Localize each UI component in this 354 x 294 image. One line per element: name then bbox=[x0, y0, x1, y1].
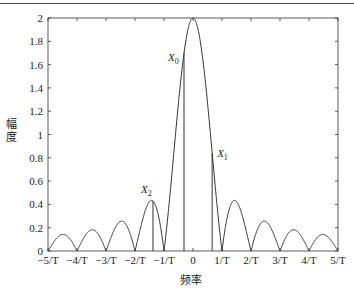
y-tick-label: 0.6 bbox=[29, 175, 43, 187]
marker-label-x2: X2 bbox=[140, 183, 152, 198]
spectrum-curve bbox=[48, 18, 338, 251]
y-tick-label: 0.8 bbox=[29, 152, 43, 164]
x-tick-label: −2/T bbox=[124, 254, 146, 266]
marker-label-x0: X0 bbox=[167, 51, 179, 66]
y-tick-label: 1.8 bbox=[29, 35, 43, 47]
marker-label-x1: X1 bbox=[216, 147, 228, 162]
y-tick-label: 1.2 bbox=[29, 105, 43, 117]
x-tick-label: 4/T bbox=[301, 254, 317, 266]
x-tick-label: 2/T bbox=[243, 254, 259, 266]
y-tick-label: 0 bbox=[38, 245, 44, 257]
sample-markers: X0X1X2 bbox=[140, 51, 228, 251]
y-axis-label: 幅度 bbox=[4, 118, 18, 144]
plot-frame bbox=[48, 18, 338, 251]
y-tick-label: 1.6 bbox=[29, 59, 43, 71]
y-tick-label: 0.4 bbox=[29, 198, 43, 210]
x-tick-label: 3/T bbox=[272, 254, 288, 266]
y-tick-label: 1 bbox=[38, 129, 44, 141]
magnitude-line bbox=[48, 18, 338, 251]
plot-axes bbox=[48, 18, 338, 251]
y-tick-label: 2 bbox=[38, 12, 44, 24]
x-tick-label: −3/T bbox=[95, 254, 117, 266]
x-tick-label: 5/T bbox=[330, 254, 346, 266]
x-axis-label: 频率 bbox=[180, 271, 202, 287]
x-tick-label: −4/T bbox=[66, 254, 88, 266]
y-tick-label: 0.2 bbox=[29, 222, 43, 234]
axis-ticks: −5/T−4/T−3/T−2/T−1/T01/T2/T3/T4/T5/T00.2… bbox=[29, 12, 346, 266]
x-tick-label: 1/T bbox=[214, 254, 230, 266]
x-tick-label: −1/T bbox=[153, 254, 175, 266]
magnitude-spectrum-chart: −5/T−4/T−3/T−2/T−1/T01/T2/T3/T4/T5/T00.2… bbox=[0, 0, 354, 294]
y-tick-label: 1.4 bbox=[29, 82, 43, 94]
x-tick-label: 0 bbox=[190, 254, 196, 266]
